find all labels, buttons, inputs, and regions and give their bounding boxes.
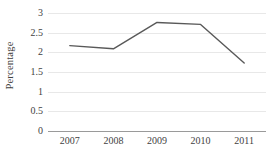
y-tick-label: 2.5: [31, 28, 44, 38]
x-tick-label: 2007: [60, 136, 80, 146]
x-tick-label: 2011: [234, 136, 254, 146]
y-tick-label: 0.5: [31, 106, 44, 116]
y-axis-title-text: Percentage: [4, 41, 15, 89]
series-layer: [48, 13, 266, 131]
axis-baseline: [48, 131, 266, 132]
series-line-percentage: [70, 22, 244, 63]
y-tick-label: 0: [38, 126, 43, 136]
x-axis-tick-labels: 20072008200920102011: [48, 136, 266, 156]
x-tick-label: 2010: [191, 136, 211, 146]
x-tick-label: 2009: [147, 136, 167, 146]
x-tick-label: 2008: [103, 136, 123, 146]
y-axis-tick-labels: 00.511.522.53: [18, 0, 46, 140]
y-tick-label: 3: [38, 8, 43, 18]
y-tick-label: 1: [38, 87, 43, 97]
y-tick-label: 1.5: [31, 67, 44, 77]
y-tick-label: 2: [38, 47, 43, 57]
y-axis-title: Percentage: [0, 0, 18, 131]
plot-area: [48, 13, 266, 131]
line-chart: Percentage 00.511.522.53 200720082009201…: [0, 0, 274, 160]
